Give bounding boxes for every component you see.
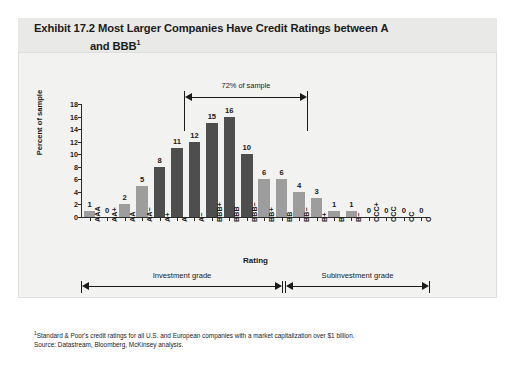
x-axis-label-A+: A+ [163, 213, 172, 222]
title-line-2: and BBB1 [90, 36, 474, 53]
title-footnote-marker: 1 [137, 39, 141, 46]
footnotes: 1Standard & Poor's credit ratings for al… [34, 329, 494, 349]
x-axis-label-B: B [337, 217, 346, 222]
x-axis-label-AA+: AA+ [110, 207, 119, 222]
y-axis-tick-mark-12 [78, 142, 81, 143]
bar-value-A: 11 [173, 137, 181, 146]
y-axis-tick-mark-4 [78, 192, 81, 193]
x-axis-tick-mark-AA− [142, 218, 143, 221]
bar-value-CCC+: 0 [367, 206, 371, 215]
x-axis-tick-mark-B [334, 218, 335, 221]
x-axis-tick-mark-AAA [90, 218, 91, 221]
x-axis-tick-mark-BB [282, 218, 283, 221]
x-axis-label-AA−: AA− [145, 207, 154, 222]
x-axis-label-B+: B+ [320, 213, 329, 222]
bar-value-AA: 2 [123, 193, 127, 202]
x-axis-label-BBB+: BBB+ [215, 202, 224, 222]
x-axis-tick-mark-BBB [229, 218, 230, 221]
subinvestment-grade-label: Subinvestment grade [285, 271, 430, 280]
y-axis-title: Percent of sample [35, 78, 44, 168]
x-axis-label-CCC: CCC [389, 206, 398, 222]
bar-value-B: 1 [332, 200, 336, 209]
x-axis-label-BBB−: BBB− [250, 202, 259, 222]
x-axis-label-B−: B− [354, 213, 363, 222]
x-axis-tick-mark-AA+ [107, 218, 108, 221]
investment-grade-label: Investment grade [81, 271, 283, 280]
x-axis-tick-mark-B− [351, 218, 352, 221]
y-axis-tick-16: 16 [62, 112, 78, 121]
x-axis-tick-mark-AA [125, 218, 126, 221]
y-axis-tick-8: 8 [62, 162, 78, 171]
exhibit-page: Exhibit 17.2 Most Larger Companies Have … [0, 0, 515, 373]
x-axis-tick-mark-BB− [299, 218, 300, 221]
bar-value-C: 0 [419, 206, 423, 215]
x-axis-label-BB+: BB+ [267, 207, 276, 222]
bar-value-AA−: 5 [140, 175, 144, 184]
x-axis-tick-mark-A− [194, 218, 195, 221]
x-axis-label-BB−: BB− [302, 207, 311, 222]
subinvestment-arrow-right-icon [422, 282, 429, 290]
footnote-note-text: Standard & Poor's credit ratings for all… [37, 332, 355, 339]
x-axis-label-BB: BB [285, 212, 294, 222]
x-axis-tick-mark-CCC+ [369, 218, 370, 221]
bar-value-BBB−: 10 [243, 143, 251, 152]
pct-of-sample-annotation: 72% of sample [184, 83, 308, 133]
y-axis-tick-14: 14 [62, 125, 78, 134]
x-axis-label-CCC+: CCC+ [372, 202, 381, 222]
bar-value-BB: 6 [280, 168, 284, 177]
x-axis-tick-mark-CCC [386, 218, 387, 221]
page-title: Exhibit 17.2 Most Larger Companies Have … [34, 22, 474, 53]
y-axis-tick-mark-18 [78, 104, 81, 105]
bar-value-AA+: 0 [105, 206, 109, 215]
y-axis-tick-12: 12 [62, 137, 78, 146]
exhibit-title-band: Exhibit 17.2 Most Larger Companies Have … [18, 18, 497, 52]
subinvestment-bracket-right-tick [429, 281, 430, 293]
y-axis-tick-mark-0 [78, 217, 81, 218]
x-axis-tick-mark-A+ [160, 218, 161, 221]
pct-of-sample-label: 72% of sample [184, 81, 308, 90]
x-axis-tick-mark-CC [404, 218, 405, 221]
bar-value-BB−: 4 [297, 181, 301, 190]
bar-value-B+: 3 [314, 187, 318, 196]
subinvestment-bracket-line [289, 286, 426, 287]
investment-arrow-right-icon [275, 282, 282, 290]
bar-A− [189, 142, 201, 217]
y-axis-tick-mark-16 [78, 117, 81, 118]
x-axis-label-A−: A− [197, 213, 206, 222]
y-axis-tick-4: 4 [62, 187, 78, 196]
y-axis-tick-mark-10 [78, 154, 81, 155]
y-axis-tick-mark-6 [78, 179, 81, 180]
title-line-1: Exhibit 17.2 Most Larger Companies Have … [34, 22, 388, 34]
subinvestment-arrow-left-icon [286, 282, 293, 290]
x-axis-tick-mark-BBB+ [212, 218, 213, 221]
x-axis-tick-mark-C [421, 218, 422, 221]
y-axis-tick-18: 18 [62, 100, 78, 109]
footnote-source: Source: Datastream, Bloomberg, McKinsey … [34, 341, 494, 349]
pct-arrow-left-icon [185, 93, 192, 101]
y-axis-tick-mark-14 [78, 129, 81, 130]
bar-A+ [154, 167, 166, 217]
bar-value-A+: 8 [157, 156, 161, 165]
investment-arrow-left-icon [82, 282, 89, 290]
x-axis-label-CC: CC [407, 212, 416, 222]
y-axis-tick-mark-8 [78, 167, 81, 168]
footnote-note: 1Standard & Poor's credit ratings for al… [34, 329, 494, 341]
bar-value-BB+: 6 [262, 168, 266, 177]
x-axis-tick-mark-B+ [317, 218, 318, 221]
investment-grade-bracket: Investment grade [81, 272, 283, 294]
x-axis-title: Rating [81, 256, 430, 265]
bar-A [171, 148, 183, 217]
pct-arrow-right-icon [300, 93, 307, 101]
bar-value-CCC: 0 [384, 206, 388, 215]
y-axis-tick-0: 0 [62, 213, 78, 222]
pct-bracket-right-tick [307, 91, 308, 131]
x-axis-tick-mark-BB+ [264, 218, 265, 221]
x-axis-tick-mark-A [177, 218, 178, 221]
y-axis-line [81, 104, 82, 218]
y-axis-tick-6: 6 [62, 175, 78, 184]
y-axis-tick-10: 10 [62, 150, 78, 159]
x-axis-label-BBB: BBB [232, 206, 241, 222]
y-axis-tick-2: 2 [62, 200, 78, 209]
bar-value-AAA: 1 [88, 200, 92, 209]
x-axis-label-AAA: AAA [93, 206, 102, 222]
